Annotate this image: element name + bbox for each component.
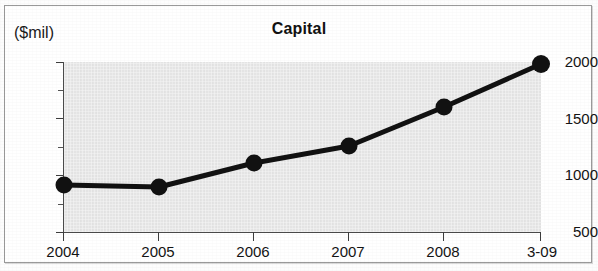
x-tick-label-2007: 2007 [331, 243, 364, 260]
x-tick-mark-2004 [63, 232, 64, 241]
data-point-3-09 [532, 55, 550, 73]
series-line [64, 64, 541, 187]
y-tick-label-1500: 1500 [546, 110, 598, 127]
x-tick-mark-2005 [158, 232, 159, 241]
chart-title: Capital [0, 20, 598, 38]
data-point-2006 [246, 155, 263, 172]
x-tick-mark-2008 [443, 232, 444, 241]
chart-figure: ($mil) Capital 2000 1500 1000 500 2004 2… [0, 0, 598, 271]
y-tick-label-2000: 2000 [546, 53, 598, 70]
data-point-2007 [341, 138, 358, 155]
x-tick-mark-2006 [253, 232, 254, 241]
capital-line-series [64, 62, 541, 232]
y-tick-label-1000: 1000 [546, 166, 598, 183]
x-tick-mark-2007 [348, 232, 349, 241]
data-point-2008 [436, 99, 453, 116]
data-point-2004 [56, 177, 73, 194]
x-tick-label-2008: 2008 [426, 243, 459, 260]
data-point-2005 [151, 179, 168, 196]
x-tick-label-2005: 2005 [141, 243, 174, 260]
plot-area [63, 62, 541, 233]
x-tick-label-3-09: 3-09 [527, 243, 557, 260]
x-tick-mark-3-09 [540, 232, 541, 241]
y-tick-label-500: 500 [546, 223, 598, 240]
x-tick-label-2004: 2004 [46, 243, 79, 260]
x-tick-label-2006: 2006 [236, 243, 269, 260]
